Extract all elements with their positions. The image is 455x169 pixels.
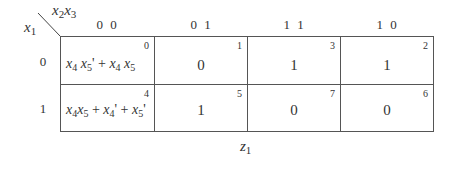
cell-value: 1 <box>341 57 433 74</box>
col-var-a: x <box>52 2 59 18</box>
output-var-sub: 1 <box>246 144 252 156</box>
col-var-b: x <box>64 2 71 18</box>
cell-expression: x4 x5' + x4 x5 <box>66 56 135 73</box>
col-header-10: 1 0 <box>341 17 434 33</box>
cell-value: 0 <box>155 57 247 74</box>
cell-value: 1 <box>155 102 247 119</box>
col-header-11: 1 1 <box>248 17 341 33</box>
cell-0: 0 x4 x5' + x4 x5 <box>61 37 154 84</box>
cell-expression: x4x5 + x4' + x5' <box>66 102 146 119</box>
cell-index: 7 <box>330 88 335 99</box>
output-label: z1 <box>240 138 251 156</box>
cell-4: 4 x4x5 + x4' + x5' <box>61 85 154 131</box>
col-header-00: 0 0 <box>61 17 154 33</box>
cell-value: 1 <box>248 57 340 74</box>
row-var: x <box>24 19 31 35</box>
cell-index: 1 <box>237 40 242 51</box>
cell-index: 5 <box>237 88 242 99</box>
cell-index: 6 <box>423 88 428 99</box>
row-variable-label: x1 <box>24 19 36 37</box>
cell-7: 7 0 <box>248 85 340 131</box>
cell-index: 3 <box>330 40 335 51</box>
row-header-1: 1 <box>33 101 53 117</box>
col-header-01: 0 1 <box>155 17 248 33</box>
cell-5: 5 1 <box>155 85 247 131</box>
row-header-0: 0 <box>33 54 53 70</box>
cell-6: 6 0 <box>341 85 433 131</box>
cell-index: 4 <box>144 88 149 99</box>
cell-value: 0 <box>341 102 433 119</box>
cell-index: 2 <box>423 40 428 51</box>
cell-value: 0 <box>248 102 340 119</box>
cell-index: 0 <box>144 40 149 51</box>
cell-2: 2 1 <box>341 37 433 84</box>
row-var-sub: 1 <box>31 25 37 37</box>
cell-1: 1 0 <box>155 37 247 84</box>
cell-3: 3 1 <box>248 37 340 84</box>
